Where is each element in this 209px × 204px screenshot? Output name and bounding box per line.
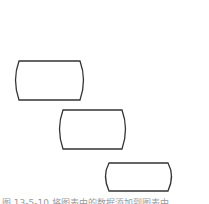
rounded-box-3 [106, 163, 172, 191]
caption-text: 图 13-5-10 将图表中的数据添加到图表中 [2, 198, 169, 204]
rounded-box-1 [16, 61, 84, 100]
diagram-canvas [0, 0, 209, 200]
rounded-box-2 [60, 110, 126, 149]
figure-caption: 图 13-5-10 将图表中的数据添加到图表中 [2, 198, 207, 204]
